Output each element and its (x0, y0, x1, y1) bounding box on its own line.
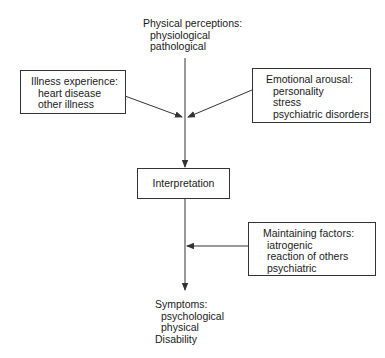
node-item: pathological (143, 41, 242, 53)
node-interpretation: Interpretation (137, 168, 230, 199)
node-item: stress (266, 97, 370, 109)
node-title: Interpretation (153, 178, 215, 190)
node-item: reaction of others (263, 251, 375, 263)
node-emotional-arousal: Emotional arousal: personality stress ps… (252, 68, 371, 123)
node-illness-experience: Illness experience: heart disease other … (20, 70, 126, 114)
node-symptoms: Symptoms: psychological physical Disabil… (155, 299, 224, 345)
node-item: other illness (31, 99, 125, 111)
node-maintaining-factors: Maintaining factors: iatrogenic reaction… (248, 222, 376, 276)
arrow-emotional-to-center (188, 90, 252, 117)
node-title: Illness experience: (31, 76, 125, 88)
node-title: Symptoms: (155, 299, 224, 311)
node-footer: Disability (155, 334, 224, 346)
node-physical-perceptions: Physical perceptions: physiological path… (143, 18, 242, 53)
node-item: psychiatric (263, 263, 375, 275)
node-item: physical (155, 322, 224, 334)
node-title: Maintaining factors: (263, 228, 375, 240)
arrow-illness-to-center (125, 96, 182, 117)
node-item: psychiatric disorders (266, 109, 370, 121)
node-title: Emotional arousal: (266, 74, 370, 86)
node-title: Physical perceptions: (143, 18, 242, 30)
